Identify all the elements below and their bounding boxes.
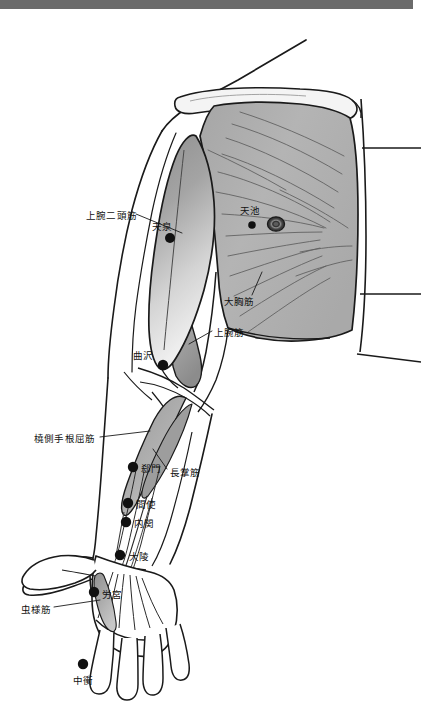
torso-right-flank [360, 99, 366, 352]
hand-group [22, 556, 189, 700]
label-biceps-brachii: 上腕二頭筋 [86, 210, 137, 221]
acupoint-label-jianshi: 間使 [136, 499, 156, 510]
thumb [22, 556, 96, 590]
elbow-crease [124, 372, 152, 400]
acupoint-label-quze: 曲沢 [133, 350, 153, 361]
acupoint-dot-ximen [128, 462, 138, 472]
label-pectoralis-major: 大胸筋 [224, 296, 255, 307]
forearm-radial-edge [93, 378, 108, 558]
label-palmaris-longus: 長掌筋 [170, 467, 201, 478]
acupoint-dot-tianquan [165, 233, 175, 243]
acupoint-dot-laogong [89, 587, 99, 597]
acupoint-label-daling: 大陵 [129, 551, 149, 562]
acupoint-label-tianchi: 天池 [240, 205, 260, 216]
acupoint-dot-tianchi [248, 221, 256, 229]
acupoint-dot-jianshi [123, 498, 133, 508]
leader-fcr [100, 431, 150, 437]
label-flexor-carpi-radialis: 橈側手根屈筋 [34, 433, 95, 444]
nipple-center [273, 222, 279, 227]
label-brachialis: 上腕筋 [214, 327, 245, 338]
acupoint-dot-zhongchong [78, 659, 88, 669]
acupoint-label-laogong: 労宮 [102, 589, 122, 600]
index-finger [90, 630, 114, 694]
acupoint-dot-daling [115, 550, 125, 560]
acupoint-label-zhongchong: 中衝 [73, 675, 93, 686]
label-lumbricals: 虫様筋 [21, 604, 52, 615]
arm-medial-edge-2 [198, 330, 228, 412]
rib-line-3 [357, 354, 421, 362]
acupoint-label-ximen: 郄門 [141, 463, 161, 474]
acupoint-label-tianquan: 天泉 [152, 221, 172, 232]
diagram-page: 上腕二頭筋 大胸筋 上腕筋 橈側手根屈筋 長掌筋 虫様筋 天泉 天池 曲沢 郄門… [0, 0, 421, 712]
little-finger [166, 624, 189, 680]
acupoint-dot-quze [158, 360, 168, 370]
acupoint-label-neiguan: 内関 [134, 518, 154, 529]
acupoint-dot-neiguan [121, 517, 131, 527]
ring-finger [143, 634, 163, 695]
anatomy-illustration: 上腕二頭筋 大胸筋 上腕筋 橈側手根屈筋 長掌筋 虫様筋 天泉 天池 曲沢 郄門… [0, 0, 421, 712]
